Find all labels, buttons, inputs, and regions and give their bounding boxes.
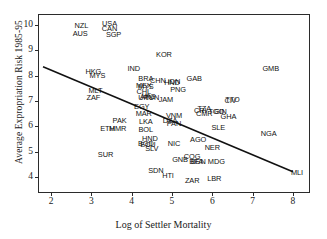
y-tick-label: 4 [28,172,33,182]
regression-line [39,15,309,192]
scatter-plot-figure: Average Expropriation Risk 1985-95 Log o… [0,0,327,239]
y-axis-title: Average Expropriation Risk 1985-95 [14,7,24,177]
y-tick-label: 9 [28,46,33,56]
x-tick-label: 7 [250,197,255,207]
x-axis-title: Log of Settler Mortality [0,219,327,230]
x-tick-label: 8 [291,197,296,207]
x-tick-label: 2 [49,197,54,207]
x-tick-label: 3 [89,197,94,207]
x-tick-label: 5 [170,197,175,207]
y-tick-label: 10 [24,20,34,30]
x-tick-label: 4 [129,197,134,207]
x-tick-label: 6 [210,197,215,207]
plot-area: 45678910 2345678 NZLAUSUSACANSGPHKGMYSML… [38,14,310,193]
y-tick-label: 7 [28,96,33,106]
y-tick-label: 6 [28,122,33,132]
y-tick-label: 5 [28,147,33,157]
y-tick-label: 8 [28,71,33,81]
